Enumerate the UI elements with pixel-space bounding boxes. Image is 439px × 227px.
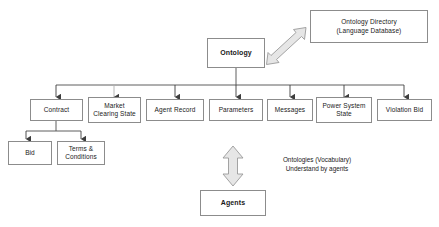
node-terms-and-conditions[interactable]: Terms & Conditions [57, 141, 105, 165]
double-headed-diagonal-arrow-icon [267, 28, 307, 65]
node-contract[interactable]: Contract [30, 99, 83, 121]
diagram-canvas: Ontology Ontology Directory (Language Da… [0, 0, 439, 227]
node-ontology-directory[interactable]: Ontology Directory (Language Database) [310, 10, 428, 43]
connector-bus-to-children [56, 85, 404, 97]
node-violation-bid[interactable]: Violation Bid [377, 99, 432, 121]
node-parameters[interactable]: Parameters [209, 99, 263, 121]
connector-ontology-to-bus [56, 68, 404, 85]
connector-contract-to-subchildren [26, 121, 81, 139]
node-market-clearing-state[interactable]: Market Clearing State [88, 97, 141, 123]
node-power-system-state[interactable]: Power System State [316, 97, 372, 123]
node-agent-record[interactable]: Agent Record [146, 99, 204, 121]
node-ontology[interactable]: Ontology [207, 38, 265, 68]
double-headed-vertical-block-arrow-icon [223, 146, 243, 186]
node-messages[interactable]: Messages [267, 99, 313, 121]
annotation-agents-note: Ontologies (Vocabulary) Understand by ag… [262, 155, 372, 173]
node-bid[interactable]: Bid [8, 141, 52, 165]
node-agents[interactable]: Agents [200, 190, 266, 216]
